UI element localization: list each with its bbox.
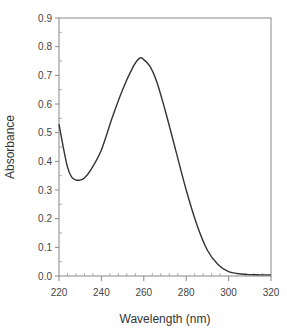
y-tick-label: 0.2 — [38, 213, 52, 224]
y-tick-label: 0.3 — [38, 185, 52, 196]
y-tick-label: 0.7 — [38, 70, 52, 81]
y-tick-label: 0.8 — [38, 41, 52, 52]
absorbance-chart: 0.00.10.20.30.40.50.60.70.80.9 220240260… — [0, 0, 287, 334]
x-axis-label: Wavelength (nm) — [120, 312, 211, 326]
x-tick-label: 320 — [263, 287, 280, 298]
plot-frame — [59, 18, 271, 276]
y-tick-label: 0.6 — [38, 99, 52, 110]
y-tick-label: 0.5 — [38, 127, 52, 138]
y-tick-label: 0.9 — [38, 13, 52, 24]
y-tick-label: 0.4 — [38, 156, 52, 167]
x-tick-label: 300 — [220, 287, 237, 298]
x-tick-label: 260 — [135, 287, 152, 298]
x-tick-label: 220 — [51, 287, 68, 298]
absorbance-curve — [59, 58, 271, 275]
x-tick-label: 240 — [93, 287, 110, 298]
y-tick-label: 0.1 — [38, 242, 52, 253]
y-axis-ticks: 0.00.10.20.30.40.50.60.70.80.9 — [38, 13, 62, 282]
y-tick-label: 0.0 — [38, 271, 52, 282]
x-tick-label: 280 — [178, 287, 195, 298]
x-axis-ticks: 220240260280300320 — [51, 273, 280, 298]
y-axis-label: Absorbance — [3, 115, 17, 179]
